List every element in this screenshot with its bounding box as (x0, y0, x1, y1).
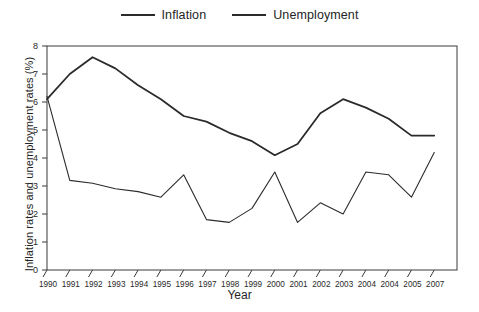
x-tick-mark (180, 270, 184, 277)
x-tick-mark (362, 270, 366, 277)
x-tick-mark (294, 270, 298, 277)
x-tick-mark (202, 270, 206, 277)
x-axis-ticks: 1990199119921993199419951996199719981999… (39, 270, 445, 289)
x-tick-mark (111, 270, 115, 277)
y-axis-title: Inflation rates and unemployment rates (… (23, 39, 35, 289)
x-axis-title: Year (0, 288, 479, 302)
x-tick-mark (385, 270, 389, 277)
plot-frame (47, 46, 457, 270)
x-tick-mark (316, 270, 320, 277)
plot-area: 012345678 199019911992199319941995199619… (0, 0, 479, 312)
x-tick-mark (89, 270, 93, 277)
x-tick-mark (339, 270, 343, 277)
chart-figure: Inflation Unemployment 012345678 1990199… (0, 0, 479, 312)
x-tick-mark (43, 270, 47, 277)
x-tick-mark (134, 270, 138, 277)
x-tick-mark (407, 270, 411, 277)
x-tick-mark (157, 270, 161, 277)
x-tick-mark (271, 270, 275, 277)
x-tick-mark (248, 270, 252, 277)
x-tick-mark (225, 270, 229, 277)
y-axis-ticks: 012345678 (33, 41, 47, 275)
x-tick-mark (66, 270, 70, 277)
x-tick-mark (430, 270, 434, 277)
